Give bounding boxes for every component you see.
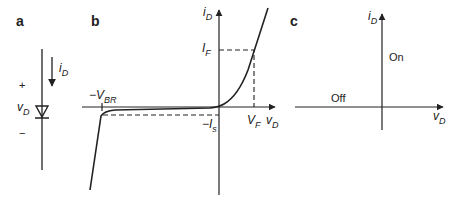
svg-text:−Is: −Is <box>202 117 217 134</box>
svg-text:+: + <box>19 79 25 91</box>
svg-text:vD: vD <box>17 100 30 117</box>
if-vf-guides <box>219 50 254 107</box>
svg-text:vD: vD <box>433 109 446 126</box>
panel-a: a iD + vD − <box>16 13 69 170</box>
diode-figure: a iD + vD − b iD IF VF vD −VBR −Is <box>0 0 462 202</box>
svg-text:VF: VF <box>247 113 261 130</box>
svg-text:iD: iD <box>368 9 378 26</box>
svg-text:−VBR: −VBR <box>89 88 117 105</box>
panel-a-label: a <box>16 13 24 29</box>
panel-b-label: b <box>91 13 100 29</box>
off-label: Off <box>331 92 346 104</box>
panel-c-label: c <box>290 13 298 29</box>
svg-text:iD: iD <box>59 61 69 78</box>
svg-text:iD: iD <box>203 5 213 22</box>
svg-text:vD: vD <box>266 113 279 130</box>
on-label: On <box>389 51 404 63</box>
panel-c-ideal: c iD vD On Off <box>290 9 446 130</box>
panel-b-iv-curve: b iD IF VF vD −VBR −Is <box>82 5 279 195</box>
svg-text:IF: IF <box>202 41 211 58</box>
svg-text:−: − <box>19 127 25 139</box>
iv-curve <box>90 8 268 190</box>
